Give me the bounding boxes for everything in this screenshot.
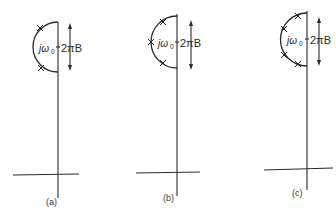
real-axis <box>136 172 200 173</box>
center-frequency-label: jω <box>156 38 168 49</box>
pole-diagram-figure: jω 0 2πB (a) jω 0 2πB (b) <box>0 0 336 214</box>
center-frequency-label: jω <box>37 43 49 54</box>
center-frequency-subscript: 0 <box>51 48 55 55</box>
panel-c: jω 0 2πB (c) <box>264 11 333 198</box>
bandwidth-label: 2πB <box>61 42 82 54</box>
panel-a: jω 0 2πB (a) <box>13 22 82 207</box>
real-axis <box>13 174 79 175</box>
bandwidth-label: 2πB <box>180 37 201 49</box>
panel-b: jω 0 2πB (b) <box>136 14 201 203</box>
center-frequency-subscript: 0 <box>299 40 303 47</box>
panel-caption: (a) <box>46 197 57 207</box>
real-axis <box>264 168 333 170</box>
panel-caption: (b) <box>163 193 174 203</box>
center-frequency-subscript: 0 <box>170 43 174 50</box>
panel-caption: (c) <box>292 188 303 198</box>
bandwidth-label: 2πB <box>310 34 331 46</box>
center-frequency-label: jω <box>285 35 297 46</box>
